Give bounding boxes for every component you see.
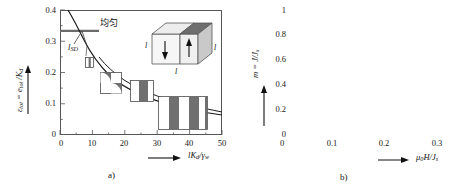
panel-a-xtick-30: 30 xyxy=(150,138,164,148)
panel-a-ytick-0: 0 xyxy=(34,129,56,139)
panel-b-ytick-0.8: 0.8 xyxy=(260,29,286,39)
panel-a-inset-flux-closure xyxy=(100,72,122,94)
panel-a-lsd-label: lSD xyxy=(68,42,78,52)
panel-a-caption: a) xyxy=(108,170,115,180)
panel-a-ytick-0.2: 0.2 xyxy=(34,67,56,77)
panel-a-ytick-0.4: 0.4 xyxy=(34,5,56,15)
panel-a-xtick-40: 40 xyxy=(182,138,196,148)
panel-a-x-axis-title: lKd/γw xyxy=(188,150,209,160)
panel-b-x-axis-title: μ0H/Js xyxy=(416,152,438,162)
panel-a-ytick-0.1: 0.1 xyxy=(34,98,56,108)
panel-b-xtick-0: 0 xyxy=(275,138,289,148)
panel-a-cube-inset: l l l xyxy=(144,18,222,76)
panel-a-xtick-20: 20 xyxy=(117,138,131,148)
panel-b: m = J/Js 1 0.8 0.6 0.4 0.2 0 0 0.1 0.2 0… xyxy=(230,0,460,190)
panel-b-xtick-0.1: 0.1 xyxy=(323,138,341,148)
panel-b-ytick-0.4: 0.4 xyxy=(260,79,286,89)
panel-b-caption: b) xyxy=(340,172,348,182)
panel-a-ytick-0.3: 0.3 xyxy=(34,36,56,46)
panel-a-inset-domain-2 xyxy=(130,80,154,102)
svg-text:l: l xyxy=(145,41,148,50)
panel-a-uniform-label: 均匀 xyxy=(100,16,118,29)
panel-a-xtick-50: 50 xyxy=(215,138,229,148)
panel-b-xtick-0.3: 0.3 xyxy=(428,138,446,148)
two-panel-figure: εtot = etot /Kd 0.4 0.3 0.2 0.1 0 0 10 2… xyxy=(0,0,460,190)
panel-a-inset-multidomain xyxy=(158,96,208,130)
panel-a-leader-1 xyxy=(86,46,87,56)
svg-text:l: l xyxy=(175,67,178,76)
panel-b-y-axis-title: m = J/Js xyxy=(250,50,260,78)
panel-b-xtick-0.2: 0.2 xyxy=(375,138,393,148)
panel-b-ytick-1: 1 xyxy=(264,5,286,15)
panel-a-x-arrow-icon xyxy=(148,152,184,164)
panel-a: εtot = etot /Kd 0.4 0.3 0.2 0.1 0 0 10 2… xyxy=(0,0,230,190)
panel-a-xtick-0: 0 xyxy=(54,138,68,148)
panel-a-xtick-10: 10 xyxy=(85,138,99,148)
panel-b-x-arrow-icon xyxy=(378,154,412,166)
svg-text:l: l xyxy=(214,43,217,52)
panel-b-ytick-0.2: 0.2 xyxy=(260,104,286,114)
panel-a-inset-domain-1 xyxy=(85,57,94,68)
panel-b-ytick-0.6: 0.6 xyxy=(260,54,286,64)
